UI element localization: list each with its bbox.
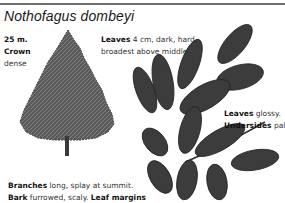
leaves-description: Leaves 4 cm, dark, hard, broadest above … (101, 34, 197, 58)
top-rule (0, 3, 285, 5)
height-annotation: 25 m. (4, 34, 28, 46)
branches-annotation: Branches long, splay at summit. Bark fur… (8, 180, 146, 203)
crown-annotation: Crown dense (4, 46, 31, 70)
leaves-glossy-annotation: Leaves glossy. Undersides paler (224, 108, 285, 132)
